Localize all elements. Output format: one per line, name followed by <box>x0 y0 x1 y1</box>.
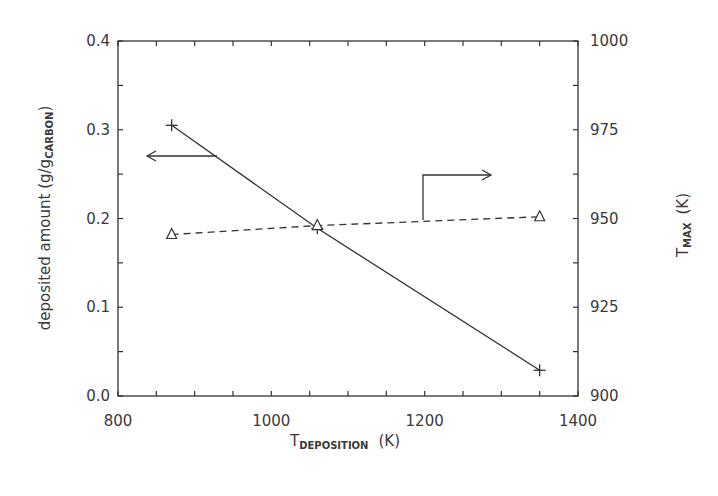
x-tick-label: 1000 <box>252 412 290 430</box>
x-axis-title: TDEPOSITION(K) <box>289 432 400 451</box>
x-tick-labels: 800100012001400 <box>104 412 597 430</box>
left-axis-arrow <box>147 151 217 161</box>
y2-tick-label: 925 <box>590 298 619 316</box>
x-tick-label: 1400 <box>559 412 597 430</box>
y2-tick-labels: 9009259509751000 <box>590 32 628 405</box>
x-tick-label: 1200 <box>406 412 444 430</box>
y-tick-labels: 0.00.10.20.30.4 <box>86 32 110 405</box>
y-axis-title: deposited amount (g/gCARBON) <box>36 106 55 331</box>
x-tick-label: 800 <box>104 412 133 430</box>
right-axis-arrow <box>423 170 491 220</box>
tmax-line <box>172 217 540 235</box>
y2-tick-label: 1000 <box>590 32 628 50</box>
chart: 800100012001400 0.00.10.20.30.4 90092595… <box>0 0 718 496</box>
deposited-amount-line <box>172 125 540 370</box>
y-tick-label: 0.1 <box>86 298 110 316</box>
y2-tick-label: 950 <box>590 210 619 228</box>
y2-axis-title: TMAX(K) <box>674 193 693 258</box>
y-tick-label: 0.0 <box>86 387 110 405</box>
y-tick-label: 0.2 <box>86 210 110 228</box>
y2-tick-label: 900 <box>590 387 619 405</box>
y2-tick-label: 975 <box>590 121 619 139</box>
y-tick-label: 0.4 <box>86 32 110 50</box>
y-tick-label: 0.3 <box>86 121 110 139</box>
